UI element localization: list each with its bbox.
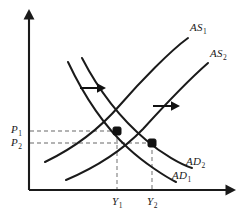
as-ad-shift-diagram: AS1 AS2 AD2 AD1 P1 P2 Y1 Y2 [0, 0, 242, 223]
equilibrium-point-2 [148, 139, 156, 147]
aggregate-supply-curves [45, 38, 208, 180]
label-ad1: AD1 [172, 170, 191, 181]
curve-ad1 [68, 62, 176, 182]
label-as1: AS1 [190, 22, 207, 33]
label-y1: Y1 [112, 196, 122, 207]
label-as2: AS2 [210, 48, 227, 59]
equilibrium-point-1 [113, 127, 121, 135]
label-p1: P1 [11, 124, 22, 135]
label-p2: P2 [11, 137, 22, 148]
aggregate-demand-curves [68, 58, 192, 182]
label-ad2: AD2 [186, 156, 205, 167]
label-y2: Y2 [147, 196, 157, 207]
